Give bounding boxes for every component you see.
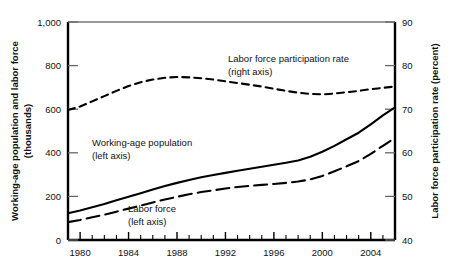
left-axis-title-line2: (thousands): [22, 104, 33, 158]
left-axis-title-line1: Working-age population and labor force: [9, 41, 20, 221]
left-axis-tick-labels: 02004006008001,000: [37, 17, 61, 246]
right-tick-label: 80: [402, 60, 413, 71]
x-tick-label: 1980: [70, 247, 91, 258]
x-tick-label: 1996: [263, 247, 284, 258]
x-tick-label: 2000: [312, 247, 333, 258]
participation-rate-annotation-line2: (right axis): [228, 66, 272, 77]
left-tick-label: 1,000: [37, 17, 61, 28]
right-axis-title: Labor force participation rate (percent): [429, 43, 440, 218]
x-tick-label: 1992: [215, 247, 236, 258]
labor-force-annotation-line2: (left axis): [128, 216, 167, 227]
right-tick-label: 70: [402, 104, 413, 115]
right-tick-label: 50: [402, 191, 413, 202]
right-tick-label: 40: [402, 235, 413, 246]
left-tick-label: 200: [45, 191, 61, 202]
right-tick-label: 90: [402, 17, 413, 28]
chart-page: 02004006008001,000 405060708090 19801984…: [0, 0, 450, 275]
x-axis-tick-labels: 1980198419881992199620002004: [70, 247, 382, 258]
labor-force-annotation-line1: Labor force: [128, 203, 176, 214]
x-tick-label: 2004: [360, 247, 381, 258]
left-axis-title: Working-age population and labor force (…: [9, 41, 33, 221]
left-tick-label: 0: [56, 235, 61, 246]
x-tick-label: 1988: [166, 247, 187, 258]
left-tick-label: 600: [45, 104, 61, 115]
left-tick-label: 400: [45, 147, 61, 158]
x-tick-label: 1984: [118, 247, 139, 258]
participation-rate-annotation-line1: Labor force participation rate: [228, 53, 349, 64]
working-age-population-annotation-line2: (left axis): [92, 150, 131, 161]
line-chart: 02004006008001,000 405060708090 19801984…: [0, 0, 450, 275]
right-axis-tick-labels: 405060708090: [402, 17, 413, 246]
left-tick-label: 800: [45, 60, 61, 71]
right-tick-label: 60: [402, 147, 413, 158]
working-age-population-annotation-line1: Working-age population: [92, 137, 192, 148]
